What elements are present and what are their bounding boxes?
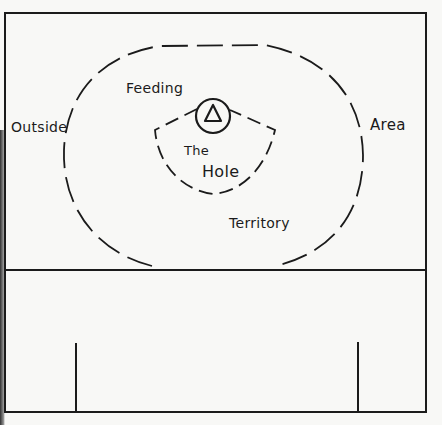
label-area: Area: [370, 116, 406, 134]
feeding-territory-boundary: [64, 45, 363, 266]
label-feeding: Feeding: [126, 80, 183, 96]
label-the: The: [184, 143, 209, 158]
label-outside: Outside: [11, 119, 67, 135]
outer-frame: [5, 13, 426, 412]
label-territory: Territory: [229, 215, 290, 231]
diagram-canvas: [0, 0, 442, 425]
label-hole: Hole: [202, 162, 239, 181]
